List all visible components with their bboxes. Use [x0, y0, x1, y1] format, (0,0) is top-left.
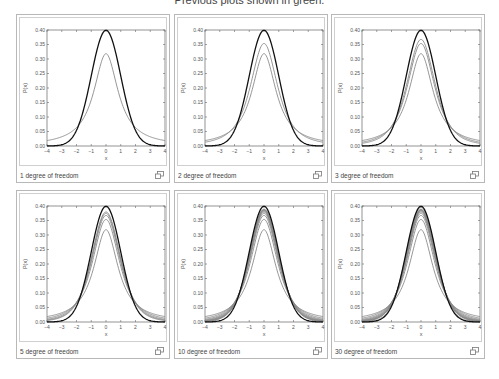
expand-icon[interactable]: [155, 171, 164, 179]
plot-frame: 0.000.050.100.150.200.250.300.350.40−4−3…: [177, 193, 325, 342]
y-tick-label: 0.10: [193, 290, 203, 296]
x-tick-label: 4: [479, 324, 482, 330]
x-tick-label: 0: [420, 148, 423, 154]
x-tick-label: −1: [403, 324, 409, 330]
y-tick-label: 0.25: [193, 70, 203, 76]
panel-caption: 1 degree of freedom: [20, 172, 79, 179]
y-tick-label: 0.05: [350, 128, 360, 134]
header-note: Previous plots shown in green.: [0, 0, 499, 6]
expand-icon[interactable]: [155, 347, 164, 355]
plot-card: 0.000.050.100.150.200.250.300.350.40−4−3…: [174, 14, 328, 183]
x-tick-label: 4: [322, 148, 325, 154]
x-tick-label: −4: [359, 148, 365, 154]
plot-card: 0.000.050.100.150.200.250.300.350.40−4−3…: [331, 190, 485, 359]
x-tick-label: −4: [202, 324, 208, 330]
x-tick-label: 2: [449, 324, 452, 330]
y-tick-label: 0.30: [350, 56, 360, 62]
plot-frame: 0.000.050.100.150.200.250.300.350.40−4−3…: [177, 17, 325, 166]
y-tick-label: 0.40: [193, 27, 203, 33]
x-tick-label: 3: [464, 324, 467, 330]
x-tick-label: 0: [105, 324, 108, 330]
y-tick-label: 0.40: [35, 27, 45, 33]
y-tick-label: 0.25: [350, 70, 360, 76]
panel-caption: 10 degree of freedom: [178, 348, 240, 355]
x-axis-label: x: [263, 155, 266, 161]
y-tick-label: 0.10: [350, 290, 360, 296]
expand-icon[interactable]: [313, 171, 322, 179]
axes-box: [205, 206, 323, 322]
x-tick-label: 3: [307, 324, 310, 330]
x-axis-label: x: [105, 331, 108, 337]
x-tick-label: 3: [307, 148, 310, 154]
expand-icon[interactable]: [470, 171, 479, 179]
x-tick-label: 1: [119, 324, 122, 330]
y-tick-label: 0.35: [193, 217, 203, 223]
y-tick-label: 0.05: [193, 128, 203, 134]
y-tick-label: 0.15: [35, 275, 45, 281]
y-tick-label: 0.15: [193, 99, 203, 105]
panel-caption: 2 degree of freedom: [178, 172, 237, 179]
panel-caption: 30 degree of freedom: [335, 348, 397, 355]
y-tick-label: 0.30: [193, 56, 203, 62]
y-axis-label: P(x): [22, 259, 28, 269]
panel-caption: 5 degree of freedom: [20, 348, 79, 355]
x-tick-label: −3: [217, 324, 223, 330]
y-axis-label: P(x): [22, 83, 28, 93]
y-tick-label: 0.05: [35, 128, 45, 134]
expand-icon[interactable]: [470, 347, 479, 355]
x-axis-label: x: [420, 155, 423, 161]
pdf-chart: 0.000.050.100.150.200.250.300.350.40−4−3…: [20, 18, 170, 168]
x-tick-label: 2: [134, 148, 137, 154]
y-tick-label: 0.20: [35, 85, 45, 91]
y-tick-label: 0.35: [193, 41, 203, 47]
x-tick-label: 3: [149, 324, 152, 330]
x-tick-label: −2: [389, 148, 395, 154]
plot-frame: 0.000.050.100.150.200.250.300.350.40−4−3…: [334, 193, 482, 342]
pdf-chart: 0.000.050.100.150.200.250.300.350.40−4−3…: [20, 194, 170, 344]
x-tick-label: 0: [105, 148, 108, 154]
y-tick-label: 0.35: [350, 217, 360, 223]
pdf-chart: 0.000.050.100.150.200.250.300.350.40−4−3…: [178, 194, 328, 344]
y-tick-label: 0.35: [35, 217, 45, 223]
x-tick-label: −3: [374, 324, 380, 330]
x-tick-label: −4: [359, 324, 365, 330]
axes-box: [205, 30, 323, 146]
x-tick-label: 3: [464, 148, 467, 154]
y-tick-label: 0.20: [193, 261, 203, 267]
y-tick-label: 0.40: [350, 27, 360, 33]
x-tick-label: 4: [164, 148, 167, 154]
x-tick-label: 4: [322, 324, 325, 330]
y-tick-label: 0.30: [350, 232, 360, 238]
y-tick-label: 0.05: [193, 304, 203, 310]
y-tick-label: 0.20: [193, 85, 203, 91]
pdf-chart: 0.000.050.100.150.200.250.300.350.40−4−3…: [335, 18, 485, 168]
y-tick-label: 0.30: [35, 56, 45, 62]
plot-frame: 0.000.050.100.150.200.250.300.350.40−4−3…: [19, 17, 167, 166]
x-axis-label: x: [105, 155, 108, 161]
x-tick-label: 2: [292, 324, 295, 330]
y-tick-label: 0.15: [350, 99, 360, 105]
expand-icon[interactable]: [313, 347, 322, 355]
plot-frame: 0.000.050.100.150.200.250.300.350.40−4−3…: [19, 193, 167, 342]
y-tick-label: 0.05: [350, 304, 360, 310]
x-tick-label: −2: [232, 324, 238, 330]
x-tick-label: −2: [389, 324, 395, 330]
y-tick-label: 0.10: [193, 114, 203, 120]
x-tick-label: 2: [134, 324, 137, 330]
x-tick-label: −4: [44, 148, 50, 154]
y-tick-label: 0.10: [35, 290, 45, 296]
y-tick-label: 0.10: [350, 114, 360, 120]
y-tick-label: 0.20: [35, 261, 45, 267]
y-tick-label: 0.35: [350, 41, 360, 47]
x-tick-label: −3: [374, 148, 380, 154]
y-tick-label: 0.05: [35, 304, 45, 310]
x-tick-label: −2: [74, 148, 80, 154]
x-tick-label: 0: [420, 324, 423, 330]
axes-box: [362, 30, 480, 146]
y-tick-label: 0.15: [35, 99, 45, 105]
x-tick-label: −3: [59, 148, 65, 154]
y-axis-label: P(x): [337, 83, 343, 93]
y-tick-label: 0.30: [193, 232, 203, 238]
y-tick-label: 0.25: [193, 246, 203, 252]
y-axis-label: P(x): [180, 83, 186, 93]
